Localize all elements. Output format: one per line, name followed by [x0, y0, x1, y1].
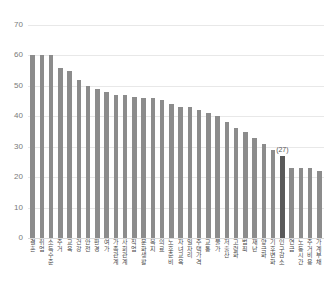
x-axis-tick-label: 건강: [75, 239, 82, 252]
bar-slot[interactable]: [151, 25, 156, 238]
bar[interactable]: [206, 113, 211, 238]
bar-slot[interactable]: [95, 25, 100, 238]
x-axis-tick-label: 일자리: [186, 239, 193, 259]
bar-slot[interactable]: [141, 25, 146, 238]
x-axis-tick-label: 노동시간: [297, 239, 304, 265]
bar-slot[interactable]: [30, 25, 35, 238]
bar[interactable]: [299, 168, 304, 238]
bar[interactable]: [114, 95, 119, 238]
x-axis-tick-label: 가족관계: [112, 239, 119, 265]
x-axis-tick-label: 재난: [251, 239, 258, 252]
bar[interactable]: [141, 98, 146, 238]
bar[interactable]: [49, 55, 54, 238]
x-axis-tick-label: 자녀교육: [177, 239, 184, 265]
bar-slot[interactable]: [58, 25, 63, 238]
bar-slot[interactable]: [243, 25, 248, 238]
bar[interactable]: [77, 80, 82, 238]
bar-slot[interactable]: [40, 25, 45, 238]
y-tick-label: 30: [14, 143, 23, 151]
bar-slot[interactable]: [252, 25, 257, 238]
bar[interactable]: [317, 171, 322, 238]
bar[interactable]: [215, 116, 220, 238]
x-axis-tick-label: 고령화: [233, 239, 240, 259]
x-axis-tick-label: 소득수준: [48, 239, 55, 265]
bar-slot[interactable]: [104, 25, 109, 238]
bar-slot[interactable]: [271, 25, 276, 238]
bar[interactable]: [243, 132, 248, 239]
bar[interactable]: [308, 168, 313, 238]
y-tick-label: 20: [14, 173, 23, 181]
bar-slot[interactable]: [132, 25, 137, 238]
bar-slot[interactable]: [86, 25, 91, 238]
x-axis-tick-label: 환경: [94, 239, 101, 252]
x-axis-tick-label: 취업: [38, 239, 45, 252]
x-axis-labels: 결혼취업소득수준주거교육건강안전환경여가가족관계사회관계직업문화생활복지의료노후…: [28, 239, 324, 294]
bar[interactable]: [151, 98, 156, 238]
y-tick-label: 10: [14, 204, 23, 212]
bar[interactable]: [30, 55, 35, 238]
bar-slot[interactable]: [206, 25, 211, 238]
bar[interactable]: [252, 138, 257, 238]
bar[interactable]: [280, 156, 285, 238]
x-axis-tick-label: 범죄: [242, 239, 249, 252]
bar-slot[interactable]: [160, 25, 165, 238]
bar[interactable]: [225, 122, 230, 238]
x-axis-tick-label: 연금: [288, 239, 295, 252]
bar-slot[interactable]: [280, 25, 285, 238]
bar-slot[interactable]: [49, 25, 54, 238]
bar-slot[interactable]: [67, 25, 72, 238]
bar[interactable]: [132, 97, 137, 238]
bar[interactable]: [67, 71, 72, 238]
bar[interactable]: [95, 89, 100, 238]
bar-slot[interactable]: [225, 25, 230, 238]
y-tick-label: 50: [14, 82, 23, 90]
x-axis-tick-label: 가계부채: [316, 239, 323, 265]
bar[interactable]: [86, 86, 91, 238]
x-axis-tick-label: 사회관계: [122, 239, 129, 265]
bar[interactable]: [169, 104, 174, 238]
x-axis-tick-label: 주택가격: [196, 239, 203, 265]
bar-slot[interactable]: [289, 25, 294, 238]
bar[interactable]: [262, 144, 267, 238]
bar-slot[interactable]: [197, 25, 202, 238]
bar-chart: 010203040506070 (27) 결혼취업소득수준주거교육건강안전환경여…: [0, 0, 328, 294]
bar[interactable]: [289, 168, 294, 238]
bar-slot[interactable]: [77, 25, 82, 238]
bar-slot[interactable]: [114, 25, 119, 238]
bar[interactable]: [104, 92, 109, 238]
x-axis-tick-label: 저출산: [223, 239, 230, 259]
bar[interactable]: [178, 107, 183, 238]
x-axis-tick-label: 교통: [205, 239, 212, 252]
bar[interactable]: [234, 128, 239, 238]
bar-slot[interactable]: [262, 25, 267, 238]
bar-slot[interactable]: [234, 25, 239, 238]
y-tick-label: 60: [14, 51, 23, 59]
plot-area: (27): [28, 25, 324, 238]
bar[interactable]: [271, 150, 276, 238]
bar[interactable]: [40, 55, 45, 238]
bar-slot[interactable]: [308, 25, 313, 238]
bar[interactable]: [58, 68, 63, 238]
bar[interactable]: [188, 107, 193, 238]
bar[interactable]: [123, 95, 128, 238]
y-tick-label: 40: [14, 112, 23, 120]
bar-slot[interactable]: [123, 25, 128, 238]
x-axis-tick-label: 결혼: [29, 239, 36, 252]
bar-slot[interactable]: [299, 25, 304, 238]
y-tick-label: 70: [14, 21, 23, 29]
bar-slot[interactable]: [178, 25, 183, 238]
bar-slot[interactable]: [317, 25, 322, 238]
bar[interactable]: [160, 100, 165, 238]
x-axis-tick-label: 기후변화: [270, 239, 277, 265]
bar-slot[interactable]: [169, 25, 174, 238]
x-axis-tick-label: 주거: [57, 239, 64, 252]
x-axis-tick-label: 안전: [85, 239, 92, 252]
bar-slot[interactable]: [188, 25, 193, 238]
x-axis-tick-label: 인구감소: [279, 239, 286, 265]
x-axis-tick-label: 복지: [149, 239, 156, 252]
x-axis-tick-label: 직업: [131, 239, 138, 252]
x-axis-tick-label: 주거비용: [307, 239, 314, 265]
bar-series: (27): [28, 25, 324, 238]
bar-slot[interactable]: [215, 25, 220, 238]
bar[interactable]: [197, 110, 202, 238]
